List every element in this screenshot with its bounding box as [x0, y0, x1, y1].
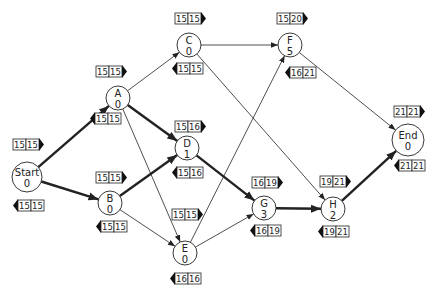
arrow-left-icon	[250, 224, 255, 237]
time-value-2: 16	[191, 168, 202, 178]
node-label: B	[107, 193, 114, 204]
arrow-right-icon	[201, 120, 206, 133]
edge-h-end-critical	[342, 151, 396, 201]
node-label: E	[182, 243, 188, 254]
time-value-1: 15	[176, 122, 187, 132]
edge-a-c	[128, 52, 180, 91]
arrow-left-icon	[285, 66, 290, 79]
time-box-early-end: 2121	[394, 105, 425, 118]
nodes-layer: Start0A0B0C0D1E0F5G3H2End0	[12, 33, 424, 265]
node-c: C0	[177, 33, 201, 57]
time-value-2: 15	[109, 114, 120, 124]
time-boxes-layer: 1515151515151515151515151515151515161516…	[13, 12, 425, 285]
time-value-2: 21	[337, 227, 348, 237]
node-label: C	[186, 35, 193, 46]
time-box-late-start: 1515	[13, 199, 44, 212]
node-duration: 3	[261, 209, 267, 220]
node-g: G3	[252, 196, 276, 220]
node-b: B0	[98, 191, 122, 215]
time-value-2: 16	[189, 274, 200, 284]
arrow-right-icon	[39, 138, 44, 151]
node-label: End	[398, 130, 417, 141]
time-value-1: 16	[176, 274, 187, 284]
edge-b-e	[120, 210, 175, 247]
time-value-1: 19	[324, 227, 335, 237]
time-box-early-h: 1921	[320, 175, 351, 188]
time-value-1: 15	[96, 114, 107, 124]
time-value-2: 19	[269, 226, 280, 236]
edge-d-g-critical	[197, 155, 255, 200]
arrow-right-icon	[122, 171, 127, 184]
time-box-early-g: 1619	[252, 176, 283, 189]
time-value-1: 16	[253, 178, 264, 188]
time-value-2: 20	[291, 14, 302, 24]
edge-start-b-critical	[41, 182, 98, 200]
time-value-1: 15	[178, 168, 189, 178]
time-box-early-start: 1515	[13, 138, 44, 151]
time-box-early-d: 1516	[175, 120, 206, 133]
arrow-left-icon	[172, 62, 177, 75]
arrow-right-icon	[303, 12, 308, 25]
node-label: A	[115, 88, 122, 99]
arrow-left-icon	[394, 159, 399, 172]
node-duration: 2	[330, 210, 336, 221]
arrow-left-icon	[172, 166, 177, 179]
node-label: H	[329, 199, 337, 210]
edge-e-g	[195, 214, 253, 247]
time-box-late-f: 1621	[285, 66, 316, 79]
node-end: End0	[392, 124, 424, 156]
arrow-right-icon	[122, 65, 127, 78]
time-value-1: 15	[173, 210, 184, 220]
node-label: G	[260, 198, 268, 209]
time-value-2: 15	[110, 67, 121, 77]
time-box-late-c: 1515	[172, 62, 203, 75]
node-duration: 0	[115, 99, 121, 110]
time-value-2: 15	[186, 210, 197, 220]
node-duration: 0	[405, 141, 411, 152]
time-value-1: 19	[321, 177, 332, 187]
arrow-left-icon	[170, 272, 175, 285]
time-value-1: 15	[102, 222, 113, 232]
time-box-late-g: 1619	[250, 224, 281, 237]
time-box-late-d: 1516	[172, 166, 203, 179]
arrow-right-icon	[201, 12, 206, 25]
node-label: D	[183, 138, 191, 149]
time-value-1: 15	[14, 140, 25, 150]
time-value-2: 15	[189, 14, 200, 24]
time-box-early-b: 1515	[96, 171, 127, 184]
time-value-1: 16	[256, 226, 267, 236]
time-box-early-f: 1520	[277, 12, 308, 25]
node-e: E0	[173, 241, 197, 265]
time-value-2: 15	[115, 222, 126, 232]
edge-a-e	[123, 109, 180, 242]
time-box-early-e: 1515	[172, 208, 203, 221]
time-box-early-a: 1515	[96, 65, 127, 78]
arrow-left-icon	[318, 225, 323, 238]
node-h: H2	[321, 197, 345, 221]
time-value-1: 21	[400, 161, 411, 171]
time-value-2: 19	[266, 178, 277, 188]
edge-g-h-critical	[276, 208, 321, 209]
time-value-2: 21	[304, 68, 315, 78]
node-duration: 1	[184, 149, 190, 160]
network-diagram: Start0A0B0C0D1E0F5G3H2End0 1515151515151…	[0, 0, 436, 295]
node-duration: 0	[107, 204, 113, 215]
time-value-2: 16	[189, 122, 200, 132]
node-duration: 5	[287, 46, 293, 57]
node-duration: 0	[182, 254, 188, 265]
time-box-late-end: 2121	[394, 159, 425, 172]
time-value-2: 21	[408, 107, 419, 117]
time-value-1: 15	[97, 173, 108, 183]
arrow-left-icon	[13, 199, 18, 212]
time-box-late-a: 1515	[90, 112, 121, 125]
arrow-left-icon	[96, 220, 101, 233]
edge-a-d-critical	[128, 105, 178, 141]
node-duration: 0	[24, 178, 30, 189]
arrow-right-icon	[278, 176, 283, 189]
node-a: A0	[106, 86, 130, 110]
time-box-early-c: 1515	[175, 12, 206, 25]
time-value-1: 15	[178, 64, 189, 74]
time-value-2: 15	[27, 140, 38, 150]
arrow-right-icon	[346, 175, 351, 188]
time-value-2: 15	[32, 201, 43, 211]
